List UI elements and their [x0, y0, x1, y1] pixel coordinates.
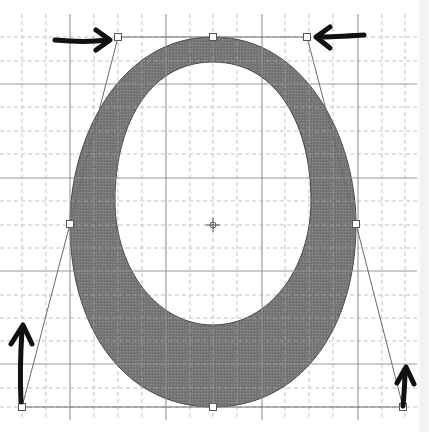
- control-point-bottom-anchor[interactable]: [210, 404, 217, 411]
- arrow-pointing-up-to-bottom-right-handle-icon: [397, 367, 414, 406]
- right-lower-handle-line: [356, 224, 403, 407]
- page-edge-shadow: [417, 0, 429, 432]
- center-crosshair-icon: [206, 218, 220, 232]
- control-point-top-left-handle[interactable]: [115, 34, 122, 41]
- arrow-pointing-right-to-top-left-handle-icon: [55, 30, 110, 50]
- control-point-right-anchor[interactable]: [353, 221, 360, 228]
- control-point-top-right-handle[interactable]: [304, 34, 311, 41]
- control-point-left-anchor[interactable]: [67, 221, 74, 228]
- control-point-top-anchor[interactable]: [210, 34, 217, 41]
- control-point-bottom-left-handle[interactable]: [19, 404, 26, 411]
- glyph-editor-canvas[interactable]: [0, 0, 429, 432]
- arrow-pointing-left-to-top-right-handle-icon: [316, 27, 364, 48]
